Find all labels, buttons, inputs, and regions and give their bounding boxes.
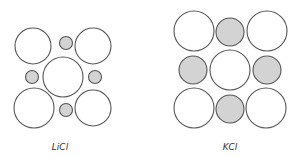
chloride-ion (75, 90, 111, 126)
chloride-ion (43, 57, 83, 97)
licl-label: LiCl (52, 142, 69, 152)
chloride-ion (247, 11, 287, 51)
chloride-ion (210, 50, 250, 90)
cation-ion (253, 56, 281, 84)
chloride-ion (174, 88, 214, 128)
licl-lattice (14, 28, 111, 128)
kcl-label: KCl (223, 142, 238, 152)
cation-ion (60, 37, 73, 50)
chloride-ion (14, 88, 54, 128)
cation-ion (26, 71, 39, 84)
cation-ion (60, 104, 73, 117)
cation-ion (89, 71, 102, 84)
cation-ion (216, 95, 244, 123)
kcl-lattice (174, 11, 287, 128)
ionic-lattice-diagram: LiCl KCl (0, 0, 302, 157)
cation-ion (179, 56, 207, 84)
cation-ion (216, 18, 244, 46)
chloride-ion (75, 28, 111, 64)
chloride-ion (246, 88, 286, 128)
chloride-ion (15, 28, 51, 64)
chloride-ion (174, 11, 214, 51)
